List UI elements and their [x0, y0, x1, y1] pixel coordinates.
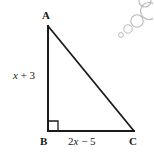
- decoration-circle: [131, 15, 143, 27]
- side-label-leg-vertical: x + 3: [13, 70, 35, 81]
- side-label-rest: − 5: [78, 135, 95, 147]
- vertex-label-a: A: [42, 10, 50, 21]
- vertex-label-b: B: [40, 136, 47, 147]
- decoration-circle: [141, 3, 154, 20]
- vertex-label-c: C: [129, 136, 137, 147]
- side-hypotenuse: [48, 26, 134, 131]
- right-angle-marker: [48, 121, 58, 131]
- side-label-rest: + 3: [18, 69, 35, 81]
- decoration-circle-chain: [119, 0, 153, 37]
- decoration-circle: [119, 33, 124, 38]
- side-label-leg-horizontal: 2x − 5: [68, 136, 96, 147]
- geometry-figure: A B C x + 3 2x − 5: [0, 0, 153, 160]
- triangle-outline: [48, 26, 134, 131]
- decoration-circle: [124, 25, 132, 33]
